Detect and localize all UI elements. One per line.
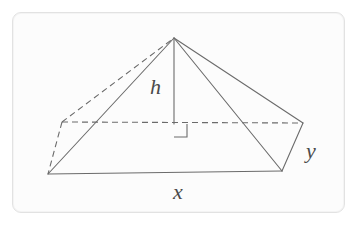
base-depth-label: y	[306, 140, 316, 162]
lateral-edge-front-left	[48, 38, 174, 174]
height-label: h	[150, 76, 161, 98]
pyramid-hidden-edges	[48, 38, 303, 174]
base-right-edge-y	[282, 123, 303, 171]
lateral-edge-front-right	[174, 38, 282, 171]
pyramid-solid-edges	[48, 38, 303, 174]
figure-canvas: h x y	[0, 0, 360, 229]
right-angle-icon	[174, 124, 187, 137]
base-length-label: x	[173, 181, 183, 203]
base-front-edge-x	[48, 171, 282, 174]
base-back-edge-hidden	[62, 122, 303, 123]
lateral-edge-back-right	[174, 38, 303, 123]
